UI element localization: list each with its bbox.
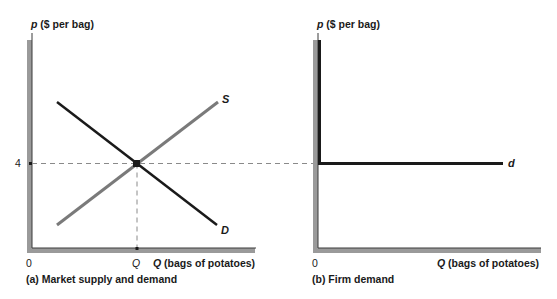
panel-firm-demand: d p ($ per bag) 0 Q (bags of potatoes) (… bbox=[312, 18, 541, 285]
origin-label: 0 bbox=[312, 257, 318, 269]
quantity-tick-label: Q bbox=[132, 257, 140, 269]
x-axis-var: Q bbox=[153, 257, 161, 269]
x-axis-var: Q bbox=[437, 257, 445, 269]
x-axis-unit: (bags of potatoes) bbox=[161, 257, 255, 269]
firm-demand-curve bbox=[320, 40, 504, 164]
x-axis-shadow bbox=[313, 248, 541, 253]
origin-label: 0 bbox=[26, 257, 32, 269]
panel-b-caption: (b) Firm demand bbox=[312, 273, 394, 285]
y-axis-shadow bbox=[27, 40, 32, 253]
x-axis-label: Q (bags of potatoes) bbox=[437, 257, 539, 269]
y-axis-label: p ($ per bag) bbox=[316, 18, 380, 30]
demand-label: D bbox=[221, 224, 229, 236]
quantity-tick bbox=[136, 247, 139, 250]
price-tick-label: 4 bbox=[15, 157, 21, 169]
x-axis-unit: (bags of potatoes) bbox=[445, 257, 539, 269]
firm-demand-label: d bbox=[508, 157, 515, 169]
supply-label: S bbox=[222, 93, 230, 105]
price-tick bbox=[29, 162, 32, 165]
y-axis-label: p ($ per bag) bbox=[30, 18, 94, 30]
x-axis-shadow bbox=[27, 248, 255, 253]
supply-demand-diagram: S D p ($ per bag) 4 0 Q Q (bags of potat… bbox=[0, 0, 557, 299]
y-axis-unit: ($ per bag) bbox=[323, 18, 380, 30]
x-axis-label: Q (bags of potatoes) bbox=[153, 257, 255, 269]
y-axis-unit: ($ per bag) bbox=[37, 18, 94, 30]
y-axis-shadow bbox=[313, 40, 318, 253]
panel-market-supply-demand: S D p ($ per bag) 4 0 Q Q (bags of potat… bbox=[15, 18, 315, 285]
panel-a-caption: (a) Market supply and demand bbox=[26, 273, 177, 285]
equilibrium-point bbox=[133, 160, 140, 167]
